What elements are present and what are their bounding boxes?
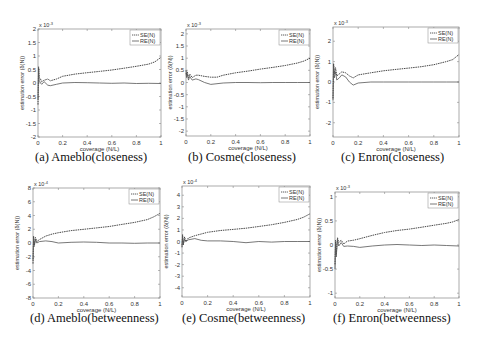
x-tick-label: 0 <box>31 301 35 307</box>
y-tick-label: -6 <box>26 281 32 287</box>
y-tick-label: -1.5 <box>174 116 185 122</box>
x-tick-label: 1 <box>457 301 461 307</box>
x-tick-label: 1 <box>159 140 163 146</box>
y-tick-label: 1 <box>33 53 37 59</box>
y-tick-label: -2 <box>175 262 181 268</box>
subplot-b: 00.20.40.60.81-2-1.5-1-0.500.511.52x 10-… <box>167 21 312 152</box>
x-tick-label: 0 <box>333 301 337 307</box>
y-tick-label: -1 <box>179 104 185 110</box>
y-axis-label: estimation error (δ(N)) <box>167 55 173 109</box>
subplot-d: 00.20.40.60.81-8-6-4-202468x 10-4coverag… <box>14 180 162 314</box>
x-tick-label: 0.2 <box>207 139 216 145</box>
y-tick-label: -2 <box>179 128 185 134</box>
y-tick-label: 1 <box>330 194 334 200</box>
y-tick-label: -1.5 <box>26 121 37 127</box>
caption-d: (d) Ameblo(betweenness) <box>30 311 159 326</box>
y-tick-label: 3 <box>177 204 181 210</box>
x-tick-label: 0.2 <box>58 140 67 146</box>
y-tick-label: 1 <box>328 59 332 65</box>
x-tick-label: 0 <box>331 140 335 146</box>
y-tick-label: -0.5 <box>26 94 37 100</box>
y-exponent-label: x 10-3 <box>39 21 54 29</box>
y-tick-label: 2 <box>28 226 32 232</box>
subplot-f: 00.20.40.60.81-1-0.500.51x 10-3coverage … <box>316 184 461 314</box>
y-tick-label: 0 <box>177 239 181 245</box>
y-tick-label: 0 <box>181 80 185 86</box>
y-tick-label: 4 <box>28 213 32 219</box>
y-tick-label: -4 <box>175 285 181 291</box>
caption-a: (a) Ameblo(closeness) <box>35 150 147 165</box>
x-tick-label: 1 <box>158 301 162 307</box>
subplot-a: 00.20.40.60.81-2-1.5-1-0.500.511.52x 10-… <box>19 21 163 153</box>
x-tick-label: 0.8 <box>430 301 439 307</box>
legend: SE(N)RE(N) <box>428 28 458 43</box>
y-axis-label: estimation error (δ(N)) <box>316 218 322 272</box>
x-tick-label: 1 <box>308 300 312 306</box>
y-exponent-label: x 10-3 <box>334 19 349 27</box>
y-tick-label: 0.5 <box>176 67 185 73</box>
y-tick-label: 1.5 <box>28 40 37 46</box>
legend-label: RE(N) <box>289 195 304 201</box>
x-tick-label: 0 <box>184 139 188 145</box>
legend: SE(N)RE(N) <box>428 193 458 208</box>
subplot-c: 00.20.40.60.81-2-1012x 10-3coverage (N/L… <box>314 19 461 153</box>
y-tick-label: 2 <box>328 38 332 44</box>
x-tick-label: 1 <box>308 139 312 145</box>
y-tick-label: 0 <box>330 242 334 248</box>
x-tick-label: 0.8 <box>281 139 290 145</box>
x-tick-label: 1 <box>457 140 461 146</box>
y-tick-label: -3 <box>175 273 181 279</box>
legend-label: RE(N) <box>438 201 453 207</box>
y-exponent-label: x 10-4 <box>34 180 49 188</box>
y-exponent-label: x 10-4 <box>183 178 198 186</box>
y-tick-label: 4 <box>177 192 181 198</box>
y-tick-label: -0.5 <box>174 92 185 98</box>
x-tick-label: 0.8 <box>280 300 289 306</box>
y-axis-label: estimation error (δ(N)) <box>163 214 169 268</box>
x-tick-label: 0.2 <box>356 301 365 307</box>
y-tick-label: 0.5 <box>325 218 334 224</box>
legend: SE(N)RE(N) <box>129 189 159 204</box>
legend-label: RE(N) <box>438 36 453 42</box>
y-tick-label: -1 <box>31 107 37 113</box>
y-tick-label: 0 <box>33 80 37 86</box>
legend: SE(N)RE(N) <box>279 187 309 202</box>
y-tick-label: 0 <box>328 79 332 85</box>
y-tick-label: -1 <box>328 290 334 296</box>
caption-b: (b) Cosme(closeness) <box>188 150 296 165</box>
y-tick-label: -1 <box>175 250 181 256</box>
x-tick-label: 0.2 <box>203 300 212 306</box>
x-tick-label: 0.8 <box>132 140 141 146</box>
figure-grid: 00.20.40.60.81-2-1.5-1-0.500.511.52x 10-… <box>0 0 479 349</box>
y-tick-label: -4 <box>26 268 32 274</box>
y-tick-label: -2 <box>26 254 32 260</box>
y-tick-label: 2 <box>177 215 181 221</box>
x-tick-label: 0.2 <box>354 140 363 146</box>
y-tick-label: -1 <box>326 99 332 105</box>
y-axis-label: estimation error (δ(N)) <box>14 216 20 270</box>
y-tick-label: 6 <box>28 199 32 205</box>
y-tick-label: -8 <box>26 295 32 301</box>
legend-label: RE(N) <box>289 38 304 44</box>
y-axis-label: estimation error (δ(N)) <box>314 55 320 109</box>
y-tick-label: 0 <box>28 240 32 246</box>
caption-f: (f) Enron(betweenness) <box>333 311 451 326</box>
y-exponent-label: x 10-3 <box>336 184 351 192</box>
y-axis-label: estimation error (δ(N)) <box>19 56 25 110</box>
x-tick-label: 0.8 <box>130 301 139 307</box>
caption-c: (c) Enron(closeness) <box>341 150 444 165</box>
y-exponent-label: x 10-3 <box>187 21 202 29</box>
x-tick-label: 0.2 <box>54 301 63 307</box>
y-tick-label: -2 <box>326 120 332 126</box>
plots-canvas: 00.20.40.60.81-2-1.5-1-0.500.511.52x 10-… <box>0 0 479 349</box>
y-tick-label: 1.5 <box>176 43 185 49</box>
legend: SE(N)RE(N) <box>130 30 160 45</box>
x-tick-label: 0.8 <box>430 140 439 146</box>
y-tick-label: 2 <box>33 26 37 32</box>
y-tick-label: 1 <box>177 227 181 233</box>
y-tick-label: -0.5 <box>323 266 334 272</box>
y-tick-label: -2 <box>31 134 37 140</box>
legend-label: RE(N) <box>139 197 154 203</box>
legend: SE(N)RE(N) <box>279 30 309 45</box>
subplot-e: 00.20.40.60.81-4-3-2-101234x 10-4coverag… <box>163 178 312 313</box>
